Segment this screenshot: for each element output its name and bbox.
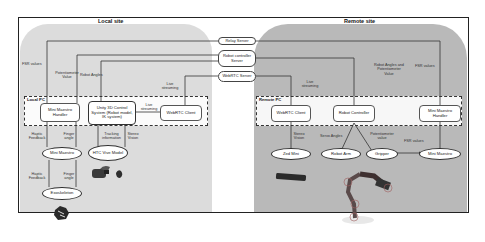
label-fsr-values-remote-top: FSR values (415, 64, 435, 68)
label-live-streaming-top: Live streaming (160, 82, 180, 91)
label-live-streaming-remote: Live streaming (298, 80, 322, 89)
vr-headset-icon (90, 163, 130, 181)
label-servo-angles: Servo Angles (320, 134, 342, 138)
robot-arm-icon (340, 170, 398, 225)
label-fsr-values-local: FSR values (22, 62, 42, 66)
remote-mini-maestro: Mini Maestro (419, 148, 461, 160)
local-site-title: Local site (98, 18, 123, 24)
local-mini-maestro-handler: Mini Maestro Handler (40, 103, 80, 122)
label-potentiometer-value-remote: Potentiometer value (367, 132, 397, 141)
gripper: Gripper (366, 148, 398, 160)
local-webrtc-client: WebRTC Client (160, 105, 202, 121)
label-finger-angle-1: Finger angle (62, 132, 76, 141)
label-potentiometer-value-local: Potentiometer Value (54, 71, 80, 80)
label-robot-angles-pot: Robot Angles and Potentiometer Value (372, 63, 406, 76)
label-haptic-feedback-2: Haptic Feedback (27, 172, 47, 181)
label-stereo-vision-remote: Stereo Vision (292, 132, 306, 141)
relay-server: Relay Server (218, 37, 256, 45)
label-fsr-values-remote-bottom: FSR values (404, 139, 424, 143)
robot-arm: Robot Arm (321, 148, 361, 160)
remote-webrtc-client: WebRTC Client (271, 105, 311, 122)
remote-pc-label: Remote PC (259, 97, 281, 102)
remote-mini-maestro-handler: Mini Maestro Handler (419, 105, 461, 122)
exoskeleton: Exoskeleton (42, 187, 82, 200)
label-stereo-vision-local: Stereo Vision (126, 132, 140, 141)
remote-site-title: Remote site (344, 18, 375, 24)
zed-mini-camera-icon (275, 172, 309, 182)
robot-controller-server: Robot controller Server (218, 50, 256, 67)
htc-vive-model: HTC Vive Model (88, 145, 128, 161)
label-live-streaming-mid: Live streaming (138, 103, 160, 112)
label-haptic-feedback-1: Haptic Feedback (27, 132, 47, 141)
local-pc-label: Local PC (27, 97, 45, 102)
local-mini-maestro: Mini Maestro (42, 147, 82, 160)
label-robot-angles-local: Robot Angles (80, 73, 103, 77)
label-tracking-information: Tracking information (98, 132, 125, 141)
unity-control-system: Unity 3D Control System (Robot model, IK… (88, 101, 136, 125)
zed-mini: Zed Mini (271, 148, 311, 160)
robot-controller: Robot Controller (333, 105, 375, 122)
exoskeleton-glove-icon (52, 205, 72, 221)
webrtc-server: WebRTC Server (218, 71, 256, 82)
label-finger-angle-2: Finger angle (62, 172, 76, 181)
